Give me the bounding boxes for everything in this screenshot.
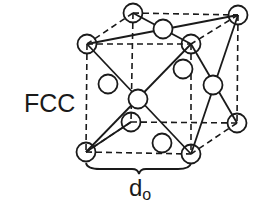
face-center-atom-right-face xyxy=(204,76,223,95)
face-center-atom-top-face xyxy=(154,20,173,39)
structure-label: FCC xyxy=(24,89,75,118)
cube-edge xyxy=(86,44,87,152)
face-center-atom-left-face xyxy=(99,75,118,94)
lattice-parameter-symbol: d xyxy=(129,174,142,201)
cube-edge xyxy=(133,13,238,15)
face-diagonal xyxy=(86,122,131,152)
dimension-brace xyxy=(86,163,191,174)
cube-edge xyxy=(191,123,237,154)
cube-edge xyxy=(86,152,191,154)
cube-edge xyxy=(131,122,237,123)
face-center-atom-back-face xyxy=(174,60,193,79)
face-center-atom-bottom-face xyxy=(153,134,172,153)
face-center-atom-front-face xyxy=(129,90,148,109)
cube-edge xyxy=(237,15,238,123)
lattice-parameter-label: do xyxy=(129,174,151,204)
atoms xyxy=(77,4,248,164)
lattice-parameter-subscript: o xyxy=(142,186,151,203)
